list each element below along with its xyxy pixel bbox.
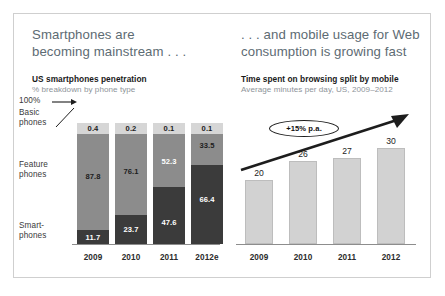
column-chart: +15% p.a. 20 26 27 30 2009 2010 2011 201… [223, 98, 432, 270]
value-feature-2009: 87.8 [77, 172, 109, 181]
value-right-2009: 20 [239, 168, 279, 178]
value-smart-2010: 23.7 [115, 225, 147, 234]
bar-right-2012 [377, 148, 405, 244]
bar-2012e: 0.1 33.5 66.4 [191, 123, 223, 244]
left-chart-title: US smartphones penetration [32, 74, 222, 84]
right-chart-subtitle: Average minutes per day, US, 2009–2012 [241, 85, 431, 94]
bar-2011: 0.1 52.3 47.6 [153, 123, 185, 244]
value-right-2011: 27 [327, 146, 367, 156]
bar-right-2011 [333, 158, 361, 244]
right-chart-title: Time spent on browsing split by mobile [241, 74, 431, 84]
xtick-right-2012: 2012 [368, 253, 414, 262]
bar-2009: 0.4 87.8 11.7 [77, 123, 109, 244]
growth-rate-callout: +15% p.a. [269, 120, 339, 137]
value-basic-2010: 0.2 [115, 124, 147, 133]
leader-line-basic-icon [54, 107, 76, 129]
value-basic-2011: 0.1 [153, 124, 185, 133]
stacked-bar-chart: 100% Basic phones Feature phones Smart- … [14, 98, 223, 270]
value-right-2010: 26 [283, 149, 323, 159]
segment-smart-2012e [191, 165, 223, 244]
x-axis-line-right [236, 244, 416, 245]
legend-smartphones: Smart- phones [19, 221, 71, 241]
left-chart-subtitle: % breakdown by phone type [32, 85, 222, 94]
bar-2010: 0.2 76.1 23.7 [115, 123, 147, 244]
value-feature-2011: 52.3 [153, 157, 185, 166]
legend-feature-phones: Feature phones [19, 160, 71, 180]
bar-right-2010 [289, 161, 317, 244]
value-smart-2011: 47.6 [153, 218, 185, 227]
panel-mobile-usage: . . . and mobile usage for Web consumpti… [223, 14, 432, 277]
value-right-2012: 30 [371, 136, 411, 146]
value-smart-2009: 11.7 [77, 233, 109, 242]
bar-right-2009 [245, 180, 273, 244]
axis-top-label: 100% [19, 96, 53, 106]
right-headline: . . . and mobile usage for Web consumpti… [241, 27, 431, 60]
arrow-100pct-icon [52, 98, 78, 106]
value-basic-2009: 0.4 [77, 124, 109, 133]
value-feature-2010: 76.1 [115, 167, 147, 176]
panel-smartphone-penetration: Smartphones are becoming mainstream . . … [14, 14, 223, 277]
value-smart-2012e: 66.4 [191, 195, 223, 204]
xtick-right-2011: 2011 [324, 253, 370, 262]
left-headline: Smartphones are becoming mainstream . . … [32, 27, 212, 60]
x-axis-line [72, 244, 220, 245]
value-basic-2012e: 0.1 [191, 124, 223, 133]
value-feature-2012e: 33.5 [191, 141, 223, 150]
xtick-right-2010: 2010 [280, 253, 326, 262]
figure-frame: Smartphones are becoming mainstream . . … [13, 13, 431, 278]
segment-feature-2009 [77, 134, 109, 230]
xtick-right-2009: 2009 [236, 253, 282, 262]
segment-smart-2011 [153, 187, 185, 244]
